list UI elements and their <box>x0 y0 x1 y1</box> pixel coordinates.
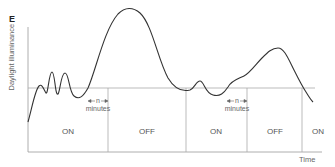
daylight-curve <box>28 9 313 122</box>
segment-label-on: ON <box>196 127 236 136</box>
diagram-canvas <box>0 0 335 167</box>
y-axis-label: Daylight illuminance <box>7 31 16 91</box>
delay-unit: minutes <box>221 105 253 113</box>
delay-unit: minutes <box>82 105 114 113</box>
segment-label-on: ON <box>301 127 335 136</box>
panel-label: E <box>9 14 15 24</box>
delay-symbol: n <box>221 97 253 105</box>
delay-label: n minutes <box>221 97 253 113</box>
delay-label: n minutes <box>82 97 114 113</box>
segment-label-off: OFF <box>127 127 167 136</box>
segment-label-on: ON <box>48 127 88 136</box>
segment-label-off: OFF <box>255 127 295 136</box>
delay-symbol: n <box>82 97 114 105</box>
x-axis-label: Time <box>299 155 315 164</box>
